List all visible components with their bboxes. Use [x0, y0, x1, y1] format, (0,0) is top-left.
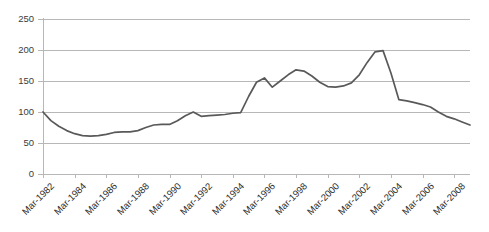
series-line-index — [43, 51, 470, 137]
line-chart: 250 200 150 100 50 0 Mar-1982Mar-1984Mar… — [0, 0, 489, 232]
series-svg — [0, 0, 489, 232]
